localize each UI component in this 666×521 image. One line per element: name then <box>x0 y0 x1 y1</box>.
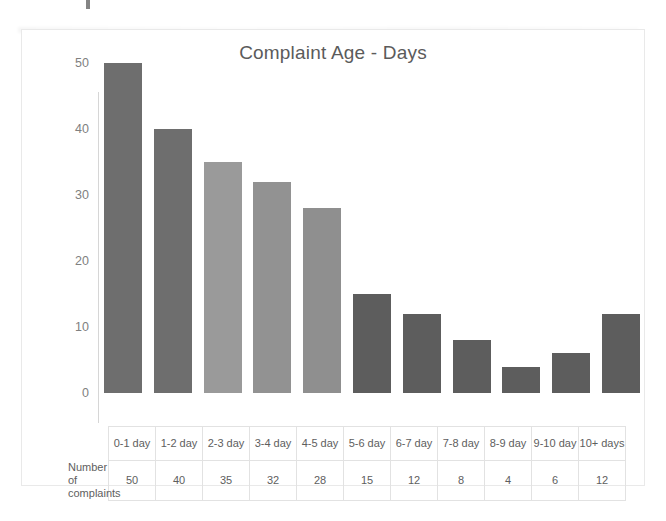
table-value-cell: 4 <box>485 461 532 501</box>
bar-slot <box>403 63 441 393</box>
bar-series <box>98 63 646 393</box>
table-category-cell: 5-6 day <box>344 427 391 461</box>
table-row-categories: 0-1 day1-2 day2-3 day3-4 day4-5 day5-6 d… <box>64 427 626 461</box>
bar-3-4-day[interactable] <box>253 182 291 393</box>
table-corner-cell <box>64 427 109 461</box>
scan-artifact-mark <box>86 0 90 9</box>
bar-5-6-day[interactable] <box>353 294 391 393</box>
y-axis-tick-0: 0 <box>82 386 98 400</box>
table-category-cell: 10+ days <box>579 427 626 461</box>
table-row-values: Number of complaints 5040353228151284612 <box>64 461 626 501</box>
table-row-label: Number of complaints <box>64 461 109 501</box>
bar-slot <box>204 63 242 393</box>
data-table: 0-1 day1-2 day2-3 day3-4 day4-5 day5-6 d… <box>64 426 626 501</box>
bar-slot <box>154 63 192 393</box>
table-value-cell: 8 <box>438 461 485 501</box>
bar-slot <box>253 63 291 393</box>
table-category-cell: 0-1 day <box>109 427 156 461</box>
y-axis-tick-50: 50 <box>75 56 98 70</box>
y-axis-tick-20: 20 <box>75 254 98 268</box>
bar-slot <box>502 63 540 393</box>
y-axis-tick-10: 10 <box>75 320 98 334</box>
table-category-cell: 1-2 day <box>156 427 203 461</box>
chart-container: Complaint Age - Days 50403020100 0-1 day… <box>21 29 645 486</box>
table-value-cell: 35 <box>203 461 250 501</box>
table-category-cell: 4-5 day <box>297 427 344 461</box>
bar-2-3-day[interactable] <box>204 162 242 393</box>
bar-6-7-day[interactable] <box>403 314 441 393</box>
y-axis-tick-30: 30 <box>75 188 98 202</box>
bar-slot <box>552 63 590 393</box>
table-value-cell: 12 <box>579 461 626 501</box>
table-value-cell: 28 <box>297 461 344 501</box>
y-axis-tick-40: 40 <box>75 122 98 136</box>
table-value-cell: 32 <box>250 461 297 501</box>
table-category-cell: 7-8 day <box>438 427 485 461</box>
table-category-cell: 6-7 day <box>391 427 438 461</box>
bar-10-days[interactable] <box>602 314 640 393</box>
bar-4-5-day[interactable] <box>303 208 341 393</box>
bar-7-8-day[interactable] <box>453 340 491 393</box>
bar-slot <box>602 63 640 393</box>
bar-slot <box>303 63 341 393</box>
bar-1-2-day[interactable] <box>154 129 192 393</box>
table-category-cell: 3-4 day <box>250 427 297 461</box>
bar-9-10-day[interactable] <box>552 353 590 393</box>
table-value-cell: 15 <box>344 461 391 501</box>
table-value-cell: 12 <box>391 461 438 501</box>
bar-0-1-day[interactable] <box>104 63 142 393</box>
bar-slot <box>453 63 491 393</box>
chart-title: Complaint Age - Days <box>22 42 644 64</box>
table-category-cell: 2-3 day <box>203 427 250 461</box>
table-value-cell: 40 <box>156 461 203 501</box>
plot-area: 50403020100 <box>98 63 646 393</box>
table-category-cell: 8-9 day <box>485 427 532 461</box>
table-value-cell: 6 <box>532 461 579 501</box>
bar-slot <box>353 63 391 393</box>
bar-slot <box>104 63 142 393</box>
bar-8-9-day[interactable] <box>502 367 540 393</box>
table-category-cell: 9-10 day <box>532 427 579 461</box>
